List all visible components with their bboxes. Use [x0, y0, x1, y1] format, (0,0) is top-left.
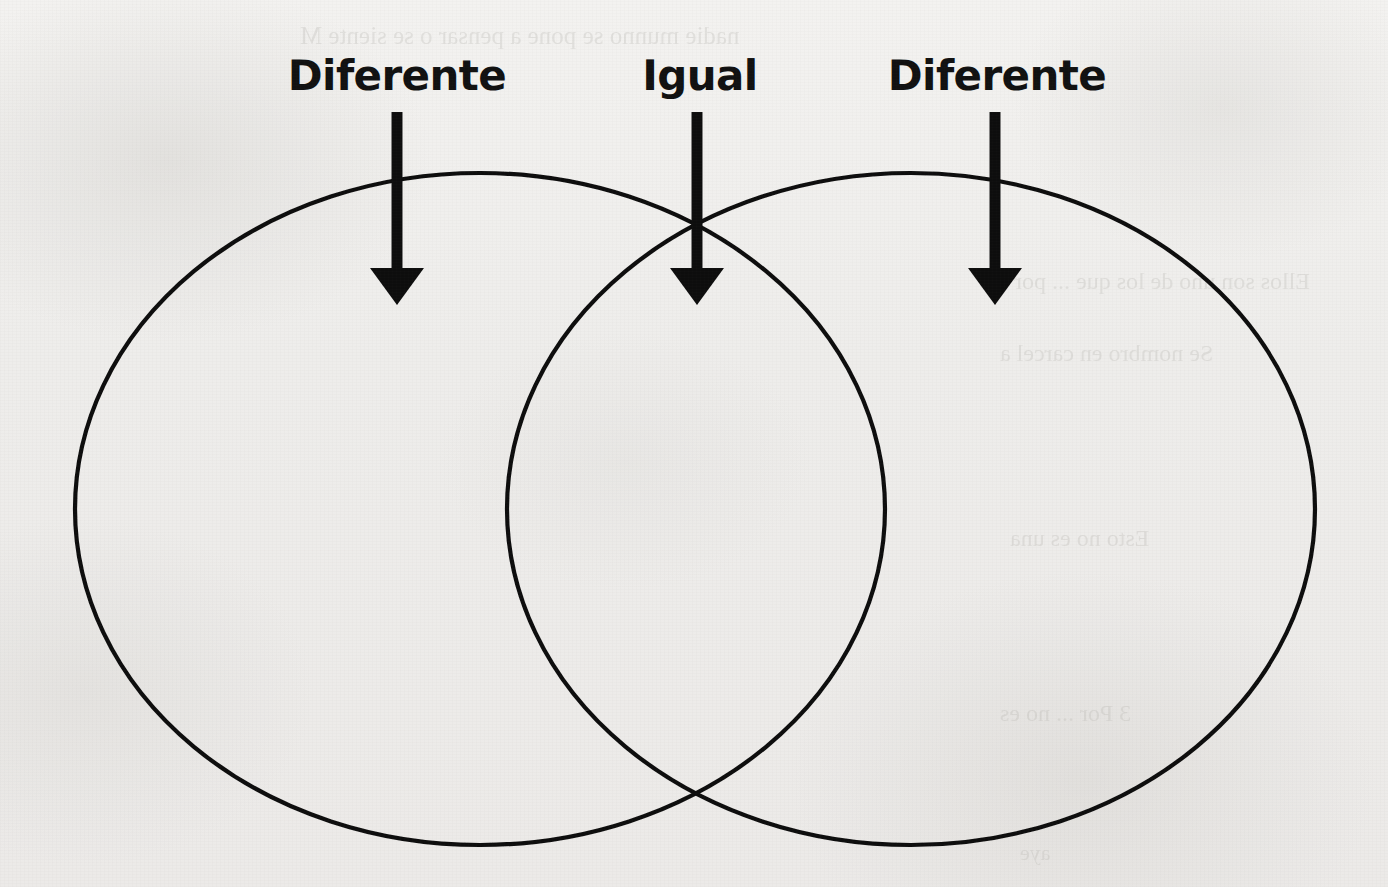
region-label-center: Igual	[642, 55, 757, 97]
region-label-right: Diferente	[888, 55, 1106, 97]
worksheet-page: nadie munno se pone a pensar o se siente…	[0, 0, 1388, 887]
left-circle	[75, 173, 885, 845]
arrow-center	[670, 112, 724, 305]
arrow-left	[370, 112, 424, 305]
region-label-left: Diferente	[288, 55, 506, 97]
venn-diagram	[0, 0, 1388, 887]
right-circle	[507, 173, 1315, 845]
arrow-right	[968, 112, 1022, 305]
